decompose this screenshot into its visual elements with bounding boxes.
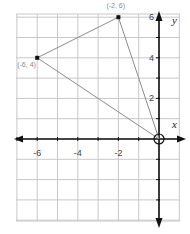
y-tick-label: 2 [149,93,154,103]
y-axis-label: y [171,14,177,26]
y-tick-label: 4 [149,53,154,63]
coordinate-plane: -6-4-2246yx(-2, 6)(-6, 4) [0,0,190,234]
points [35,15,164,144]
y-axis-arrow-down-icon [156,218,163,228]
x-tick-label: -4 [74,148,82,158]
point-marker [116,15,120,19]
x-tick-label: -6 [33,148,41,158]
y-tick-label: 6 [149,12,154,22]
point-marker [35,56,39,60]
grid [16,14,180,221]
x-axis-arrow-right-icon [177,136,186,143]
x-tick-label: -2 [114,148,122,158]
axes [14,11,186,228]
x-axis-label: x [171,118,177,130]
point-label: (-2, 6) [106,2,125,10]
point-label: (-6, 4) [17,61,36,69]
y-axis-arrow-up-icon [156,11,163,21]
x-axis-arrow-left-icon [14,136,23,143]
